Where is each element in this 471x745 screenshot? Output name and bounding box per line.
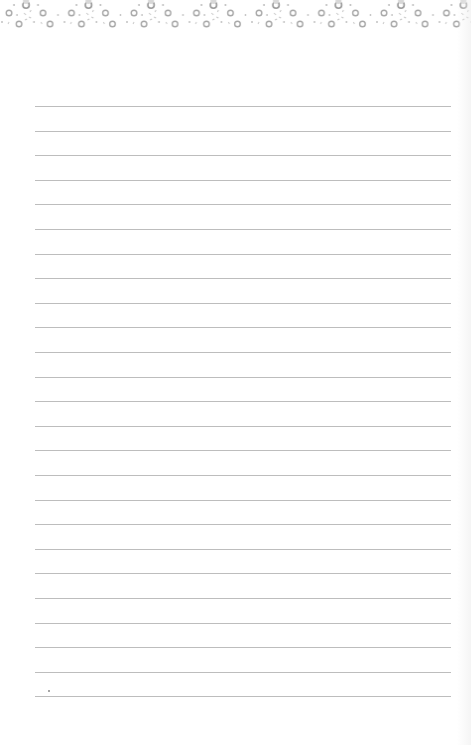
ruled-line — [35, 327, 451, 328]
ruled-line — [35, 573, 451, 574]
ruled-line — [35, 303, 451, 304]
ruled-line — [35, 524, 451, 525]
ruled-line — [35, 131, 451, 132]
ruled-line — [35, 426, 451, 427]
ruled-line — [35, 204, 451, 205]
ruled-line — [35, 500, 451, 501]
ruled-line — [35, 278, 451, 279]
ruled-line — [35, 229, 451, 230]
ruled-line — [35, 352, 451, 353]
ruled-line — [35, 155, 451, 156]
ruled-line — [35, 180, 451, 181]
ruled-line — [35, 401, 451, 402]
ruled-line — [35, 377, 451, 378]
ruled-line — [35, 475, 451, 476]
ruled-line — [35, 696, 451, 697]
page-edge-shadow — [457, 0, 471, 745]
ruled-line — [35, 450, 451, 451]
notepad-page — [0, 0, 471, 745]
ruled-line — [35, 647, 451, 648]
paper-speck — [48, 690, 50, 692]
ruled-line — [35, 106, 451, 107]
ruled-line — [35, 623, 451, 624]
ruled-line — [35, 672, 451, 673]
ruled-line — [35, 549, 451, 550]
ruled-line — [35, 254, 451, 255]
ruled-lines — [0, 0, 471, 745]
ruled-line — [35, 598, 451, 599]
